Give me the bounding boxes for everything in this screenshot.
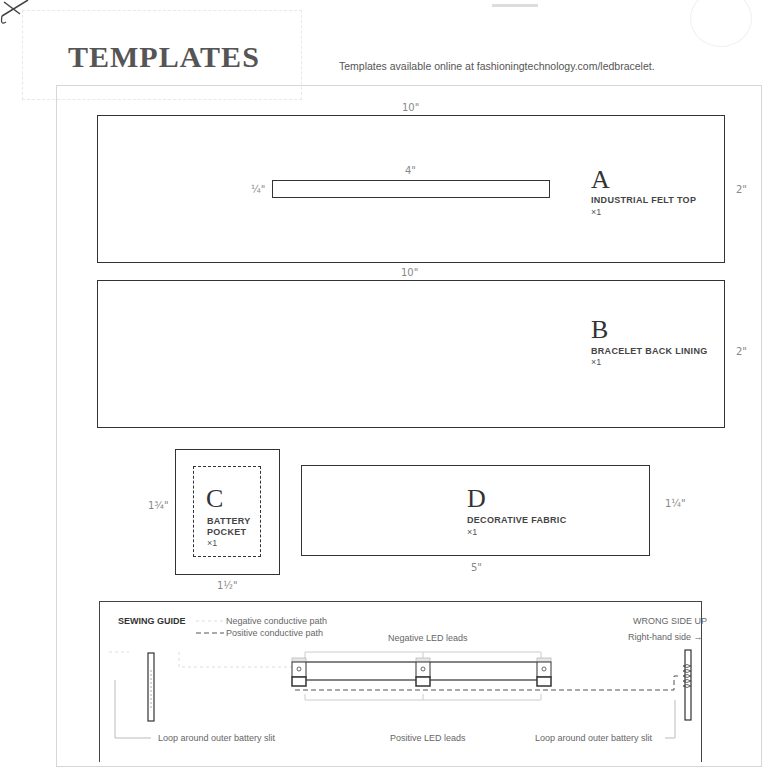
piece-a-qty: ×1 xyxy=(591,207,601,217)
left-loop-label: Loop around outer battery slit xyxy=(158,733,275,743)
orientation-label: WRONG SIDE UP xyxy=(633,616,707,626)
piece-d-letter: D xyxy=(467,486,486,512)
piece-c-width-label: 1½" xyxy=(217,580,238,591)
negative-leads-bracket xyxy=(305,652,541,658)
negative-path-legend-swatch xyxy=(196,618,224,624)
piece-c-qty: ×1 xyxy=(207,538,217,548)
positive-path-legend-swatch xyxy=(196,630,224,636)
decorative-circle xyxy=(690,0,752,47)
sewing-diagram xyxy=(99,640,700,745)
decorative-bar xyxy=(492,4,538,7)
piece-a-slit-height-label: ¼" xyxy=(251,184,265,195)
right-loop-label: Loop around outer battery slit xyxy=(535,733,652,743)
piece-c-stitch-line xyxy=(193,466,261,557)
piece-c-letter: C xyxy=(206,486,223,512)
right-loop-leader xyxy=(665,700,675,738)
piece-a-led-slit xyxy=(272,180,550,198)
piece-a-letter: A xyxy=(591,167,610,193)
piece-a-width-label: 10" xyxy=(402,102,419,113)
piece-a-height-label: 2" xyxy=(736,184,747,195)
piece-d-width-label: 5" xyxy=(471,562,482,573)
legend-positive-path: Positive conductive path xyxy=(226,628,323,638)
left-loop-leader xyxy=(115,680,151,738)
piece-b-height-label: 2" xyxy=(736,346,747,357)
templates-url-note: Templates available online at fashioning… xyxy=(339,60,655,72)
piece-c-name-line2: POCKET xyxy=(207,527,246,538)
piece-b-name: BRACELET BACK LINING xyxy=(591,346,708,357)
piece-b-letter: B xyxy=(591,317,608,343)
piece-b-width-label: 10" xyxy=(401,267,418,278)
positive-leads-bracket xyxy=(305,694,541,700)
sewing-guide-title: SEWING GUIDE xyxy=(118,616,186,626)
piece-b-qty: ×1 xyxy=(591,357,601,367)
led-3 xyxy=(537,658,551,686)
led-2 xyxy=(416,658,430,686)
piece-c-name-line1: BATTERY xyxy=(207,516,251,527)
scissors-icon xyxy=(0,0,32,32)
piece-d-name: DECORATIVE FABRIC xyxy=(467,515,566,526)
piece-c-height-label: 1¾" xyxy=(148,500,169,511)
piece-d-qty: ×1 xyxy=(467,527,477,537)
legend-negative-path: Negative conductive path xyxy=(226,616,327,626)
piece-a-slit-width-label: 4" xyxy=(405,165,416,176)
piece-d-height-label: 1¼" xyxy=(665,498,686,509)
led-1 xyxy=(292,658,306,686)
piece-a-name: INDUSTRIAL FELT TOP xyxy=(591,195,696,206)
page-title: TEMPLATES xyxy=(68,40,260,74)
positive-led-leads-label: Positive LED leads xyxy=(390,733,466,743)
